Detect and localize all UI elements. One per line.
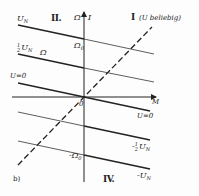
quadrant-i-label: I	[131, 13, 135, 22]
axis-m-label: M	[152, 99, 159, 106]
line-neg-half-un-right	[84, 126, 150, 140]
label-omega-curve: Ω	[40, 49, 47, 57]
panel-label: b)	[13, 176, 20, 183]
label-un: UN	[17, 15, 28, 24]
line-half-un-right	[84, 68, 154, 82]
line-un-right	[84, 39, 154, 54]
axis-current-label: I	[88, 14, 91, 22]
quadrant-iv-label: IV.	[103, 175, 114, 184]
label-half-un: 12UN	[17, 43, 32, 53]
label-u0-right: U=0	[137, 113, 153, 120]
label-neg-half-un: -12NUN	[132, 142, 150, 152]
line-half-un-left	[18, 54, 84, 68]
label-neg-omega0: -Ω0	[69, 152, 82, 161]
line-neg-un-right	[84, 155, 150, 169]
label-neg-un: -UN	[137, 172, 151, 181]
line-u0-left	[18, 83, 84, 97]
label-omega0: Ω0	[74, 42, 84, 51]
diagram-graphics	[0, 0, 199, 196]
axis-omega-label: Ω	[74, 14, 81, 22]
torque-speed-diagram: UN II. Ω I I (U beliebig) 12UN Ω Ω0 U=0 …	[0, 0, 199, 196]
quadrant-i-note: (U beliebig)	[139, 15, 181, 22]
quadrant-ii-label: II.	[51, 14, 61, 23]
origin-label: 0	[79, 101, 83, 108]
label-u0-left: U=0	[10, 73, 26, 80]
line-un-left	[18, 25, 84, 39]
line-neg-half-un-left	[18, 112, 84, 126]
line-u0-right	[84, 97, 150, 111]
